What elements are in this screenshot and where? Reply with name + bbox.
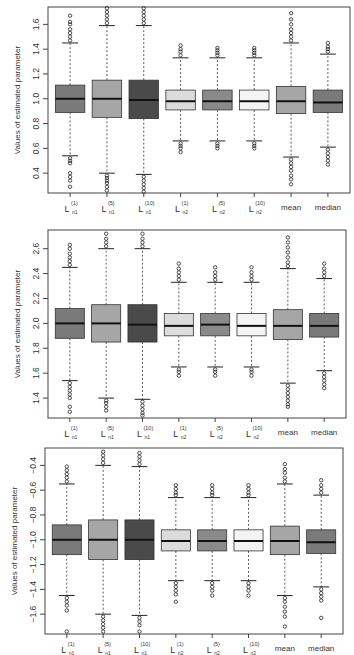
x-tick-label: mean bbox=[278, 428, 298, 437]
x-tick-label-sub: n2 bbox=[219, 209, 225, 215]
outlier-point bbox=[179, 150, 182, 153]
box-iqr bbox=[128, 305, 157, 342]
outlier-point bbox=[104, 409, 107, 412]
outlier-point bbox=[68, 259, 71, 262]
y-tick-label: 2.6 bbox=[31, 243, 41, 255]
y-tick-label: −1.6 bbox=[28, 605, 38, 622]
outlier-point bbox=[247, 581, 250, 584]
outlier-point bbox=[68, 20, 71, 23]
outlier-point bbox=[247, 484, 250, 487]
outlier-point bbox=[247, 594, 250, 597]
outlier-point bbox=[177, 271, 180, 274]
box-l1n1 bbox=[55, 14, 84, 189]
x-tick-label: L bbox=[170, 645, 175, 655]
outlier-point bbox=[177, 274, 180, 277]
y-tick-label: 0.8 bbox=[31, 117, 41, 129]
x-tick-label: L bbox=[98, 645, 103, 655]
x-tick-label-sub: n2 bbox=[183, 209, 189, 215]
outlier-point bbox=[141, 408, 144, 411]
y-tick-label: 1.8 bbox=[31, 342, 41, 354]
outlier-point bbox=[65, 609, 68, 612]
outlier-point bbox=[142, 14, 145, 17]
x-tick-label-sup: (5) bbox=[107, 425, 114, 431]
outlier-point bbox=[326, 152, 329, 155]
box-median bbox=[307, 479, 336, 620]
x-tick-label: L bbox=[243, 645, 248, 655]
outlier-point bbox=[289, 162, 292, 165]
outlier-point bbox=[286, 384, 289, 387]
outlier-point bbox=[326, 159, 329, 162]
outlier-point bbox=[286, 256, 289, 259]
outlier-point bbox=[65, 469, 68, 472]
y-tick-label: −0.4 bbox=[28, 457, 38, 474]
outlier-point bbox=[68, 243, 71, 246]
box-l5n1 bbox=[92, 232, 121, 412]
outlier-point bbox=[68, 410, 71, 413]
x-tick-label: mean bbox=[275, 644, 295, 653]
x-tick-label-sup: (5) bbox=[213, 641, 220, 647]
box-iqr bbox=[276, 86, 305, 113]
box-l5n1 bbox=[92, 7, 121, 193]
x-tick-label: L bbox=[101, 429, 106, 439]
x-tick-label: median bbox=[308, 644, 334, 653]
outlier-point bbox=[65, 604, 68, 607]
y-tick-label: 1.6 bbox=[31, 367, 41, 379]
outlier-point bbox=[283, 625, 286, 628]
outlier-point bbox=[319, 479, 322, 482]
outlier-point bbox=[286, 399, 289, 402]
outlier-point bbox=[319, 616, 322, 619]
box-median bbox=[313, 41, 342, 166]
x-tick-label-sup: (10) bbox=[140, 641, 150, 647]
box-median bbox=[310, 262, 339, 390]
outlier-point bbox=[68, 381, 71, 384]
outlier-point bbox=[104, 237, 107, 240]
y-tick-label: −0.8 bbox=[28, 506, 38, 523]
outlier-point bbox=[250, 374, 253, 377]
outlier-point bbox=[174, 487, 177, 490]
outlier-point bbox=[101, 457, 104, 460]
outlier-point bbox=[322, 371, 325, 374]
outlier-point bbox=[286, 246, 289, 249]
outlier-point bbox=[326, 148, 329, 151]
outlier-point bbox=[177, 278, 180, 281]
outlier-point bbox=[322, 271, 325, 274]
outlier-point bbox=[216, 147, 219, 150]
box-l1n2 bbox=[161, 484, 190, 604]
box-iqr bbox=[313, 90, 342, 112]
box-l1n1 bbox=[55, 243, 84, 413]
outlier-point bbox=[101, 622, 104, 625]
outlier-point bbox=[289, 183, 292, 186]
outlier-point bbox=[68, 175, 71, 178]
box-l1n1 bbox=[52, 465, 81, 633]
outlier-point bbox=[179, 147, 182, 150]
outlier-point bbox=[326, 155, 329, 158]
outlier-point bbox=[142, 21, 145, 24]
outlier-point bbox=[247, 585, 250, 588]
x-tick-label: mean bbox=[281, 203, 301, 212]
outlier-point bbox=[101, 454, 104, 457]
outlier-point bbox=[68, 256, 71, 259]
outlier-point bbox=[142, 183, 145, 186]
outlier-point bbox=[68, 389, 71, 392]
outlier-point bbox=[289, 35, 292, 38]
box-iqr bbox=[203, 90, 232, 110]
outlier-point bbox=[286, 251, 289, 254]
outlier-point bbox=[141, 237, 144, 240]
x-tick-label-sup: (10) bbox=[250, 641, 260, 647]
outlier-point bbox=[319, 487, 322, 490]
outlier-point bbox=[322, 383, 325, 386]
outlier-point bbox=[141, 241, 144, 244]
y-axis-label: Values of estimated parameter bbox=[10, 486, 19, 595]
outlier-point bbox=[286, 395, 289, 398]
boxplot-figure: 0.40.60.81.01.21.41.6Values of estimated… bbox=[0, 0, 354, 655]
box-iqr bbox=[237, 313, 266, 335]
outlier-point bbox=[289, 12, 292, 15]
y-tick-label: −1.2 bbox=[28, 556, 38, 573]
outlier-point bbox=[289, 178, 292, 181]
outlier-point bbox=[289, 39, 292, 42]
outlier-point bbox=[210, 594, 213, 597]
x-tick-label-sub: n1 bbox=[144, 434, 150, 440]
x-tick-label-sub: n1 bbox=[105, 650, 111, 655]
outlier-point bbox=[250, 271, 253, 274]
x-tick-label: L bbox=[173, 429, 178, 439]
